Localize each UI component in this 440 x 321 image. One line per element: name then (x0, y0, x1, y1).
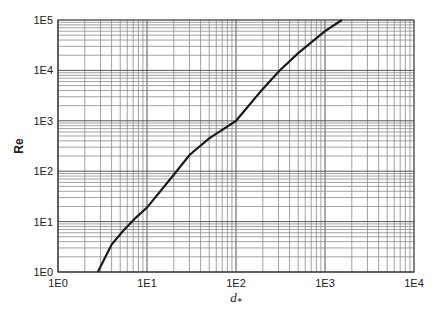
y-tick-label: 1E5 (33, 14, 53, 26)
y-tick-label: 1E2 (33, 165, 53, 177)
y-tick-labels: 1E01E11E21E31E41E5 (33, 14, 53, 278)
y-tick-label: 1E0 (33, 266, 53, 278)
x-tick-labels: 1E01E11E21E31E4 (48, 277, 424, 289)
x-tick-label: 1E4 (404, 277, 424, 289)
x-tick-label: 1E2 (226, 277, 246, 289)
x-axis-label: d* (230, 290, 242, 307)
y-tick-label: 1E3 (33, 115, 53, 127)
y-axis-label: Re (12, 138, 26, 154)
grid-lines (58, 20, 414, 272)
x-tick-label: 1E1 (137, 277, 157, 289)
x-tick-label: 1E0 (48, 277, 68, 289)
y-tick-label: 1E4 (33, 64, 53, 76)
chart: 1E01E11E21E31E4 1E01E11E21E31E41E5 Re d* (0, 0, 440, 321)
x-tick-label: 1E3 (315, 277, 335, 289)
y-tick-label: 1E1 (33, 216, 53, 228)
